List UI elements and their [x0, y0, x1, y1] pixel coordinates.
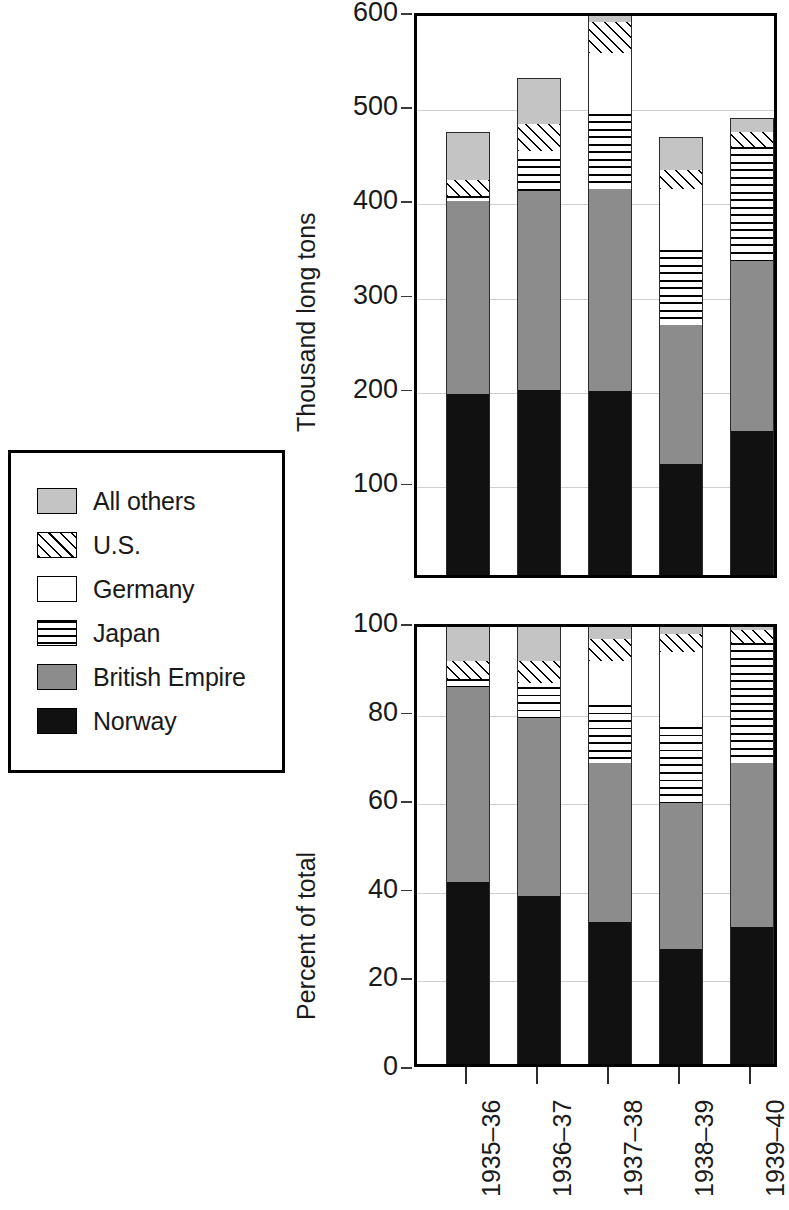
bar-segment-all-others — [588, 13, 632, 22]
bar-segment-us — [659, 170, 703, 189]
legend-item-british-empire: British Empire — [37, 655, 282, 699]
bar-segment-all-others — [730, 118, 774, 132]
bar-segment-all-others — [446, 624, 490, 661]
y-axis-tick-mark — [401, 13, 412, 15]
legend-item-germany: Germany — [37, 567, 282, 611]
legend-item-norway: Norway — [37, 699, 282, 743]
bar-segment-us — [730, 132, 774, 146]
bar-segment-us — [517, 124, 561, 151]
legend-label-japan: Japan — [93, 619, 160, 648]
bar-segment-norway — [659, 949, 703, 1064]
legend-item-us: U.S. — [37, 523, 282, 567]
bar-segment-japan — [517, 687, 561, 718]
bar-segment-japan — [730, 643, 774, 763]
bar-segment-norway — [517, 390, 561, 575]
y-axis-tick-label: 20 — [306, 964, 398, 991]
y-axis-tick-label: 500 — [306, 93, 398, 120]
bar-segment-norway — [588, 922, 632, 1064]
bar-segment-british-empire — [588, 763, 632, 922]
y-axis-tick-label: 600 — [306, 0, 398, 26]
y-axis-tick-mark — [401, 484, 412, 486]
y-axis-tick-mark — [401, 1067, 412, 1069]
y-axis-tick-label: 100 — [306, 470, 398, 497]
bar-segment-norway — [659, 464, 703, 575]
legend-swatch-germany — [37, 576, 77, 602]
bar-segment-british-empire — [659, 325, 703, 464]
bar-segment-all-others — [659, 137, 703, 170]
bar-segment-norway — [730, 431, 774, 575]
bar-segment-germany — [588, 53, 632, 113]
bar-1938-39 — [659, 624, 703, 1064]
x-axis-label: 1939–40 — [761, 1100, 789, 1197]
x-axis-label: 1936–37 — [548, 1100, 577, 1197]
bar-segment-japan — [659, 727, 703, 802]
bar-segment-british-empire — [659, 803, 703, 949]
y-axis-tick-label: 300 — [306, 282, 398, 309]
y-axis-tick-mark — [401, 801, 412, 803]
y-axis-tick-label: 40 — [306, 876, 398, 903]
legend-label-all-others: All others — [93, 487, 195, 516]
y-axis-tick-mark — [401, 390, 412, 392]
bar-segment-british-empire — [588, 189, 632, 391]
bar-1935-36 — [446, 132, 490, 575]
bar-segment-japan — [588, 705, 632, 763]
y-axis-tick-mark — [401, 624, 412, 626]
x-axis-tick-mark — [607, 1067, 609, 1084]
bar-1937-38 — [588, 13, 632, 575]
bar-segment-norway — [517, 896, 561, 1064]
bar-segment-us — [659, 634, 703, 652]
x-axis-tick-mark — [536, 1067, 538, 1084]
legend-swatch-japan — [37, 620, 77, 646]
bar-1935-36 — [446, 624, 490, 1064]
legend-label-germany: Germany — [93, 575, 194, 604]
bar-segment-all-others — [517, 78, 561, 124]
bar-segment-japan — [517, 159, 561, 191]
bar-segment-us — [588, 639, 632, 661]
bar-segment-norway — [446, 394, 490, 575]
y-axis-tick-label: 400 — [306, 187, 398, 214]
bar-segment-us — [730, 630, 774, 643]
bar-segment-japan — [659, 250, 703, 324]
bar-segment-british-empire — [446, 687, 490, 882]
x-axis-tick-mark — [678, 1067, 680, 1084]
x-axis-label: 1935–36 — [477, 1100, 506, 1197]
x-axis-label: 1938–39 — [690, 1100, 719, 1197]
bar-segment-british-empire — [517, 718, 561, 895]
legend-swatch-norway — [37, 708, 77, 734]
bar-segment-germany — [588, 661, 632, 705]
bar-segment-norway — [730, 927, 774, 1064]
chart-plot-percent-of-total — [414, 624, 777, 1067]
bar-segment-us — [517, 661, 561, 683]
bar-segment-british-empire — [730, 763, 774, 927]
bar-1939-40 — [730, 624, 774, 1064]
bar-segment-all-others — [517, 624, 561, 661]
y-axis-tick-mark — [401, 296, 412, 298]
y-axis-tick-label: 100 — [306, 610, 398, 637]
x-axis-tick-mark — [749, 1067, 751, 1084]
legend-swatch-british-empire — [37, 664, 77, 690]
y-axis-tick-label: 80 — [306, 699, 398, 726]
bar-segment-us — [446, 180, 490, 195]
legend-item-japan: Japan — [37, 611, 282, 655]
bar-segment-japan — [730, 147, 774, 262]
bar-segment-norway — [588, 391, 632, 575]
bar-segment-germany — [517, 151, 561, 159]
y-axis-tick-label: 0 — [306, 1053, 398, 1080]
bar-1936-37 — [517, 624, 561, 1064]
y-axis-tick-mark — [401, 201, 412, 203]
legend-label-us: U.S. — [93, 531, 141, 560]
chart-legend: All others U.S. Germany Japan British Em… — [8, 450, 285, 773]
bar-segment-british-empire — [446, 201, 490, 394]
legend-label-british-empire: British Empire — [93, 663, 246, 692]
bar-segment-british-empire — [730, 261, 774, 431]
chart-plot-thousand-long-tons — [414, 13, 777, 578]
bar-segment-british-empire — [517, 191, 561, 391]
bar-segment-germany — [659, 652, 703, 727]
x-axis-tick-mark — [465, 1067, 467, 1084]
y-axis-tick-label: 200 — [306, 376, 398, 403]
bar-segment-all-others — [588, 624, 632, 639]
legend-label-norway: Norway — [93, 707, 177, 736]
bar-1937-38 — [588, 624, 632, 1064]
bar-1936-37 — [517, 78, 561, 575]
legend-item-all-others: All others — [37, 479, 282, 523]
